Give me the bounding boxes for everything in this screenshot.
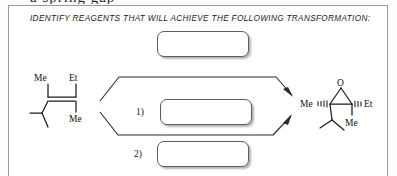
worksheet-page: a spring gap IDENTIFY REAGENTS THAT WILL… [0, 0, 397, 176]
answer-box-step-2[interactable] [157, 141, 249, 167]
answer-box-step-1[interactable] [160, 99, 252, 125]
answer-box-top[interactable] [157, 31, 249, 57]
cropped-header-fragment: a spring gap [0, 0, 397, 4]
step-label-2: 2) [134, 149, 142, 159]
cropped-header-text: a spring gap [30, 0, 115, 4]
step-label-1: 1) [136, 107, 144, 117]
prompt-text: IDENTIFY REAGENTS THAT WILL ACHIEVE THE … [30, 14, 370, 23]
